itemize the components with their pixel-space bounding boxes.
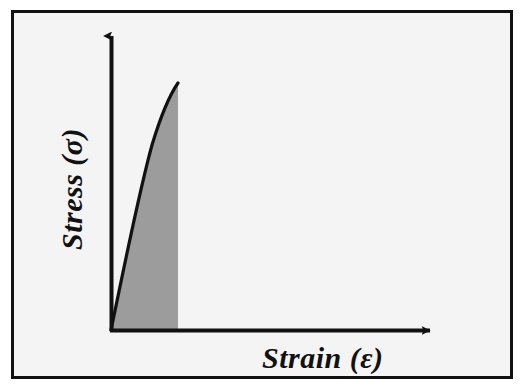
shaded-area-under-curve [111,83,178,330]
figure-root: Strain (ε) Stress (σ) [0,0,523,387]
stress-strain-plot [0,0,523,387]
x-axis-label: Strain (ε) [262,341,384,375]
